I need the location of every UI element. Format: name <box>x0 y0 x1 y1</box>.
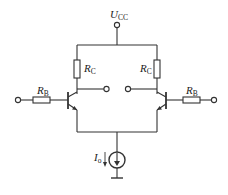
differential-amplifier-diagram: UCC RC RC RB RB Io <box>0 0 228 195</box>
right-output-terminal <box>125 86 130 91</box>
right-input-terminal <box>211 97 216 102</box>
io-label: Io <box>93 151 102 165</box>
left-rb-label: RB <box>36 84 49 98</box>
right-rc-label: RC <box>139 62 152 76</box>
left-rc-label: RC <box>83 62 96 76</box>
vcc-label: UCC <box>110 8 128 22</box>
vcc-terminal <box>114 22 119 27</box>
left-output-terminal <box>104 86 109 91</box>
right-transistor <box>157 92 166 132</box>
left-transistor <box>68 92 77 132</box>
left-input-terminal <box>15 97 20 102</box>
io-direction-arrow-icon <box>103 162 107 167</box>
right-rc-resistor <box>154 60 160 78</box>
right-rb-label: RB <box>185 84 198 98</box>
left-rc-resistor <box>74 60 80 78</box>
